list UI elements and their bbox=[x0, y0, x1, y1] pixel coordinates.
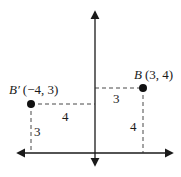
point-b-prime bbox=[27, 100, 35, 108]
distance-bprime-vertical: 3 bbox=[34, 124, 41, 139]
distance-bprime-horizontal: 4 bbox=[62, 109, 69, 124]
label-b-prime: B′(−4, 3) bbox=[9, 82, 58, 97]
coordinate-diagram: B(3, 4) B′(−4, 3) 3 4 4 3 bbox=[0, 0, 181, 177]
label-b: B(3, 4) bbox=[134, 67, 173, 82]
point-b bbox=[139, 84, 147, 92]
distance-b-vertical: 4 bbox=[130, 119, 137, 134]
distance-b-horizontal: 3 bbox=[113, 91, 120, 106]
